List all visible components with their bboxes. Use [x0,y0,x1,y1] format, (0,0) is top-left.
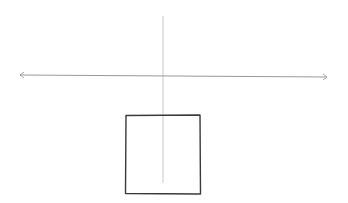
horizontal-axis-arrow [20,72,327,80]
sketch-canvas [0,0,348,203]
diagram-svg [0,0,348,203]
